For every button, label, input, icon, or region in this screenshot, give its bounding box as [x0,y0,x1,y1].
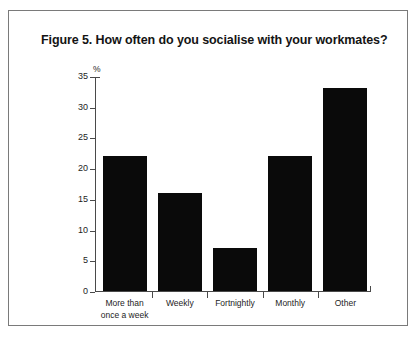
y-axis-tick-mark [90,200,95,201]
y-axis-tick: 35 [95,77,100,78]
y-axis-tick-label: 25 [78,132,88,142]
bar [158,193,202,291]
bar [323,88,367,291]
y-axis-tick: 15 [95,200,100,201]
x-axis-category-label: More than once a week [93,298,156,321]
figure-container: Figure 5. How often do you socialise wit… [0,0,416,337]
y-axis-tick-label: 30 [78,102,88,112]
y-axis-tick: 25 [95,138,100,139]
y-axis-tick-mark [90,77,95,78]
y-axis-tick-mark [90,231,95,232]
y-axis-tick-mark [90,138,95,139]
figure-frame: Figure 5. How often do you socialise wit… [8,10,408,326]
y-axis-tick-label: 5 [83,255,88,265]
y-axis-tick-mark [90,108,95,109]
bar [103,156,147,291]
bar [213,248,257,291]
x-axis-category-label: Monthly [259,298,322,310]
y-axis-unit-label: % [93,64,101,74]
x-axis-right-cap [370,286,371,292]
y-axis-tick: 5 [95,261,100,262]
y-axis-tick-mark [90,261,95,262]
page-title: Figure 5. How often do you socialise wit… [41,33,401,48]
y-axis-tick-label: 20 [78,163,88,173]
y-axis-tick: 20 [95,169,100,170]
bar [268,156,312,291]
y-axis-tick-mark [90,169,95,170]
y-axis-tick-mark [90,292,95,293]
plot-area: 05101520253035 [95,77,371,292]
y-axis-line [95,77,96,292]
x-axis-category-label: Weekly [148,298,211,310]
x-axis-line [95,291,371,292]
x-axis-category-label: Fortnightly [203,298,266,310]
y-axis-tick-label: 35 [78,71,88,81]
y-axis-tick-label: 0 [83,286,88,296]
y-axis-tick: 0 [95,292,100,293]
y-axis-tick-label: 10 [78,225,88,235]
y-axis-tick: 10 [95,231,100,232]
y-axis-tick: 30 [95,108,100,109]
y-axis-tick-label: 15 [78,194,88,204]
x-axis-category-label: Other [314,298,377,310]
